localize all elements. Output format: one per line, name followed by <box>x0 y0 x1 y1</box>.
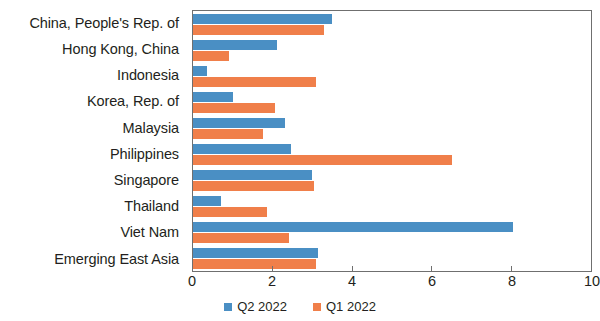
bar-group <box>193 115 591 141</box>
category-label: Singapore <box>0 167 184 193</box>
x-axis-tick-mark <box>591 266 592 271</box>
x-axis-tick-label: 10 <box>584 274 600 289</box>
x-axis-tick-mark <box>352 266 353 271</box>
bar-group <box>193 63 591 89</box>
x-axis-tick-label: 2 <box>268 274 276 289</box>
category-label: Indonesia <box>0 62 184 88</box>
bar-q2-2022 <box>193 92 233 102</box>
x-axis-tick-labels: 0246810 <box>192 274 592 296</box>
category-label: Emerging East Asia <box>0 246 184 272</box>
x-axis-tick-label: 0 <box>188 274 196 289</box>
bar-group <box>193 141 591 167</box>
legend-label: Q2 2022 <box>237 300 287 313</box>
bar-rows <box>193 11 591 271</box>
bar-q2-2022 <box>193 170 312 180</box>
bar-q1-2022 <box>193 25 324 35</box>
bar-q1-2022 <box>193 181 314 191</box>
legend-item[interactable]: Q1 2022 <box>313 300 376 313</box>
bar-q1-2022 <box>193 51 229 61</box>
bar-group <box>193 219 591 245</box>
category-label: Hong Kong, China <box>0 36 184 62</box>
x-axis-tick-mark <box>431 266 432 271</box>
bar-group <box>193 37 591 63</box>
legend-swatch-icon <box>313 303 321 311</box>
bar-q1-2022 <box>193 155 452 165</box>
bar-chart: China, People's Rep. ofHong Kong, ChinaI… <box>0 0 600 321</box>
bar-q2-2022 <box>193 196 221 206</box>
bar-q1-2022 <box>193 259 316 269</box>
category-label: Thailand <box>0 193 184 219</box>
bar-group <box>193 89 591 115</box>
bar-q1-2022 <box>193 103 275 113</box>
category-label: Malaysia <box>0 115 184 141</box>
x-axis-tick-label: 8 <box>508 274 516 289</box>
bar-q2-2022 <box>193 40 277 50</box>
chart-legend: Q2 2022Q1 2022 <box>0 300 600 313</box>
bar-group <box>193 245 591 271</box>
bar-q1-2022 <box>193 207 267 217</box>
bar-q2-2022 <box>193 248 318 258</box>
bar-q2-2022 <box>193 118 285 128</box>
category-label: China, People's Rep. of <box>0 10 184 36</box>
category-label: Viet Nam <box>0 220 184 246</box>
category-label: Philippines <box>0 141 184 167</box>
bar-q1-2022 <box>193 233 289 243</box>
bar-q2-2022 <box>193 144 291 154</box>
legend-item[interactable]: Q2 2022 <box>224 300 287 313</box>
bar-group <box>193 167 591 193</box>
x-axis-tick-mark <box>511 266 512 271</box>
x-axis-tick-label: 4 <box>348 274 356 289</box>
bar-group <box>193 11 591 37</box>
plot-area <box>192 10 592 272</box>
legend-label: Q1 2022 <box>326 300 376 313</box>
bar-q2-2022 <box>193 66 207 76</box>
bar-q2-2022 <box>193 14 332 24</box>
bar-q1-2022 <box>193 77 316 87</box>
x-axis-tick-mark <box>272 266 273 271</box>
category-axis-labels: China, People's Rep. ofHong Kong, ChinaI… <box>0 10 184 272</box>
bar-q1-2022 <box>193 129 263 139</box>
bar-group <box>193 193 591 219</box>
bar-q2-2022 <box>193 222 513 232</box>
category-label: Korea, Rep. of <box>0 89 184 115</box>
x-axis-tick-label: 6 <box>428 274 436 289</box>
legend-swatch-icon <box>224 303 232 311</box>
